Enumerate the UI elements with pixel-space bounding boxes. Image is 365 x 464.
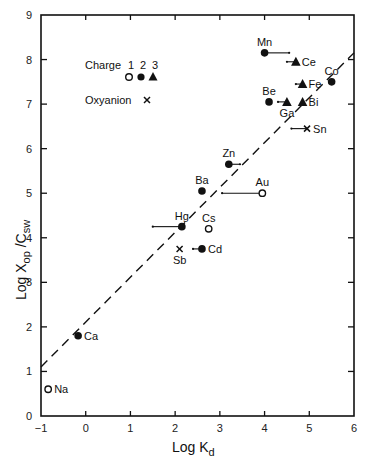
data-point-na: Na (45, 383, 69, 395)
data-point-co: Co (325, 65, 339, 86)
data-point-ga: Ga (277, 97, 295, 119)
data-point-ce: Ce (286, 56, 316, 68)
y-tick-label: 8 (26, 54, 32, 66)
scatter-chart: −101234560123456789 NaCaMnCeCoFeBeGaBiSn… (0, 0, 365, 464)
data-point-mn: Mn (257, 36, 290, 57)
point-label: Bi (309, 96, 319, 108)
point-label: Ba (195, 174, 209, 186)
axis-ticks: −101234560123456789 (26, 9, 357, 434)
legend-open-circle-icon (126, 74, 133, 81)
data-point-au: Au (221, 176, 269, 196)
point-label: Ga (280, 107, 296, 119)
filled-circle-icon (265, 98, 273, 106)
open-circle-icon (205, 226, 211, 232)
legend-charge-3: 3 (152, 59, 158, 71)
point-label: Co (325, 65, 339, 77)
data-point-ba: Ba (195, 174, 209, 195)
data-point-fe: Fe (295, 78, 322, 90)
legend-oxyanion-label: Oxyanion (85, 94, 131, 106)
x-tick-label: 5 (306, 422, 312, 434)
y-tick-label: 0 (26, 410, 32, 422)
point-label: Au (256, 176, 269, 188)
x-axis-title: Log Kd (172, 439, 215, 458)
open-circle-icon (45, 386, 51, 392)
point-label: Hg (175, 210, 189, 222)
data-point-cd: Cd (192, 243, 222, 255)
legend-charge-1: 1 (128, 59, 134, 71)
y-tick-label: 1 (26, 365, 32, 377)
data-point-sn: Sn (290, 123, 326, 135)
x-tick-label: 2 (172, 422, 178, 434)
legend: Charge 1 2 3 Oxyanion (85, 59, 158, 106)
plot-frame (41, 15, 354, 416)
y-tick-label: 5 (26, 187, 32, 199)
filled-circle-icon (198, 245, 206, 253)
point-label: Cs (202, 212, 216, 224)
x-tick-label: 1 (127, 422, 133, 434)
filled-circle-icon (261, 49, 269, 57)
legend-charge-label: Charge (85, 59, 121, 71)
point-label: Cd (208, 243, 222, 255)
filled-circle-icon (178, 223, 186, 231)
y-tick-label: 7 (26, 98, 32, 110)
y-tick-label: 9 (26, 9, 32, 21)
legend-cross-icon (144, 97, 150, 103)
filled-circle-icon (198, 187, 206, 195)
x-tick-label: 6 (351, 422, 357, 434)
point-label: Ca (84, 330, 99, 342)
x-tick-label: 0 (83, 422, 89, 434)
y-tick-label: 2 (26, 321, 32, 333)
filled-circle-icon (225, 160, 233, 168)
legend-triangle-icon (149, 72, 158, 81)
point-label: Mn (257, 36, 272, 48)
data-point-zn: Zn (222, 147, 241, 168)
point-label: Ce (302, 56, 316, 68)
data-point-sb: Sb (173, 246, 186, 266)
open-circle-icon (259, 190, 265, 196)
filled-circle-icon (328, 78, 336, 86)
x-tick-label: 4 (262, 422, 268, 434)
data-point-cs: Cs (202, 212, 216, 232)
point-label: Fe (309, 78, 322, 90)
point-label: Sn (313, 123, 326, 135)
point-label: Zn (222, 147, 235, 159)
x-tick-label: −1 (35, 422, 48, 434)
data-point-hg: Hg (152, 210, 189, 231)
point-label: Be (262, 85, 275, 97)
point-label: Na (54, 383, 69, 395)
cross-icon (177, 246, 183, 252)
filled-circle-icon (74, 332, 82, 340)
legend-charge-2: 2 (140, 59, 146, 71)
legend-filled-circle-icon (137, 73, 144, 80)
point-label: Sb (173, 254, 186, 266)
data-point-be: Be (262, 85, 275, 106)
data-point-ca: Ca (74, 330, 99, 342)
x-tick-label: 3 (217, 422, 223, 434)
y-tick-label: 6 (26, 143, 32, 155)
